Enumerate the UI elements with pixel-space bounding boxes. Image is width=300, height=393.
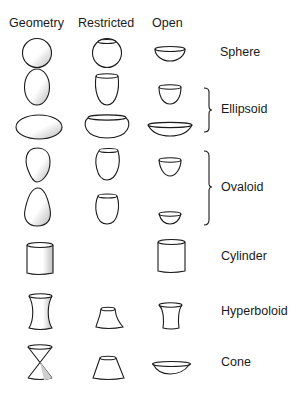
- ovaloid-point-up-icon: [25, 188, 51, 226]
- open-ovaloid-deep-icon: [159, 158, 181, 176]
- sphere-icon: [23, 39, 52, 68]
- ovaloid-point-down-icon: [26, 148, 50, 182]
- restricted-cone-icon: [93, 356, 124, 379]
- open-hyperboloid-icon: [159, 303, 182, 329]
- restricted-oblate-icon: [85, 115, 129, 138]
- shape-diagram: [0, 0, 300, 393]
- oblate-ellipsoid-icon: [16, 115, 62, 139]
- open-cone-icon: [153, 362, 191, 375]
- open-hemisphere-icon: [155, 47, 185, 62]
- restricted-sphere-icon: [93, 39, 122, 68]
- open-prolate-icon: [159, 85, 181, 104]
- open-ovaloid-shallow-icon: [159, 212, 181, 224]
- ovaloid-bracket: [204, 151, 212, 225]
- cylinder-icon: [27, 243, 53, 275]
- restricted-prolate-icon: [95, 74, 118, 105]
- ellipsoid-bracket: [204, 88, 212, 132]
- restricted-hyperboloid-icon: [96, 307, 123, 328]
- prolate-ellipsoid-icon: [25, 69, 50, 105]
- restricted-ovaloid-icon: [96, 149, 119, 181]
- open-oblate-icon: [148, 122, 192, 136]
- double-cone-icon: [28, 345, 52, 380]
- open-cylinder-icon: [158, 240, 185, 273]
- hyperboloid-icon: [29, 294, 52, 330]
- restricted-ovaloid-2-icon: [96, 194, 119, 224]
